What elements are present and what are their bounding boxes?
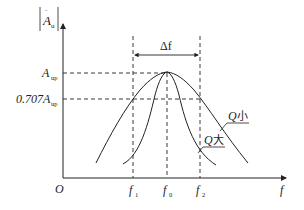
svg-text:0.707A: 0.707A bbox=[16, 92, 51, 106]
f2-label: f 2 bbox=[196, 183, 205, 198]
q-small-label: Q 小 bbox=[220, 109, 249, 131]
svg-text:Q: Q bbox=[204, 133, 213, 147]
svg-text:0: 0 bbox=[169, 191, 172, 198]
y-axis-label: A · u bbox=[40, 6, 58, 31]
svg-text:小: 小 bbox=[237, 110, 248, 122]
svg-text:大: 大 bbox=[213, 133, 224, 146]
aup-label: A up bbox=[41, 66, 58, 81]
curve-q-large bbox=[123, 72, 216, 165]
svg-text:up: up bbox=[51, 100, 58, 107]
svg-text:·: · bbox=[45, 6, 47, 15]
q-large-label: Q 大 bbox=[198, 133, 225, 153]
f1-label: f 1 bbox=[129, 183, 138, 198]
svg-text:2: 2 bbox=[202, 191, 205, 198]
origin-label: O bbox=[55, 182, 64, 196]
svg-text:f: f bbox=[129, 183, 134, 197]
x-axis-label: f bbox=[280, 183, 285, 197]
svg-text:f: f bbox=[163, 183, 168, 197]
svg-text:A: A bbox=[41, 66, 50, 80]
svg-text:Q: Q bbox=[228, 109, 237, 123]
svg-text:f: f bbox=[196, 183, 201, 197]
f0-label: f 0 bbox=[163, 183, 172, 198]
bandwidth-label: Δf bbox=[160, 39, 172, 53]
resonance-curve-diagram: A · u Δf Q 小 Q 大 A up 0.707A up O f 1 bbox=[0, 0, 304, 210]
0707-aup-label: 0.707A up bbox=[16, 92, 58, 107]
svg-text:up: up bbox=[51, 74, 58, 81]
svg-text:1: 1 bbox=[135, 191, 138, 198]
svg-text:u: u bbox=[51, 22, 55, 30]
curve-q-small bbox=[96, 72, 248, 163]
svg-text:A: A bbox=[42, 13, 51, 28]
